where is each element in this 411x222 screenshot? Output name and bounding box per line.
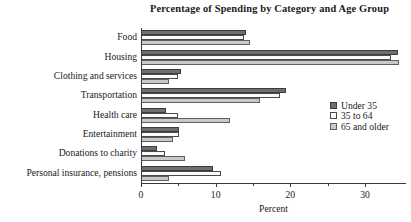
y-axis-category-label: Health care [0, 110, 137, 120]
bar [141, 156, 185, 161]
x-axis-tick-label: 10 [211, 189, 221, 200]
chart-title: Percentage of Spending by Category and A… [0, 3, 411, 14]
legend-label: 65 and older [341, 121, 389, 132]
legend-swatch-icon [330, 112, 337, 119]
bar [141, 118, 230, 123]
x-axis-tick-label: 20 [285, 189, 295, 200]
bar [141, 79, 169, 84]
y-axis-category-labels: FoodHousingClothing and servicesTranspor… [0, 28, 137, 183]
x-axis-minor-tick [253, 183, 254, 186]
legend-label: 35 to 64 [341, 110, 372, 121]
legend-item[interactable]: Under 35 [330, 100, 410, 111]
x-axis-minor-tick [328, 183, 329, 186]
x-axis-tick [365, 183, 366, 187]
y-axis-category-label: Housing [0, 52, 137, 62]
y-axis-line [141, 28, 142, 183]
legend-swatch-icon [330, 123, 337, 130]
x-axis-tick-label: 30 [360, 189, 370, 200]
bar [141, 40, 250, 45]
legend-item[interactable]: 35 to 64 [330, 111, 410, 122]
legend-swatch-icon [330, 102, 337, 109]
x-axis-tick-label: 0 [139, 189, 144, 200]
bar [141, 98, 260, 103]
y-axis-category-label: Entertainment [0, 129, 137, 139]
x-axis-minor-tick [178, 183, 179, 186]
y-axis-category-label: Clothing and services [0, 71, 137, 81]
x-axis-title: Percent [141, 203, 406, 214]
x-axis-tick [290, 183, 291, 187]
bar [141, 137, 173, 142]
x-axis-tick [141, 183, 142, 187]
chart-container: Percentage of Spending by Category and A… [0, 0, 411, 222]
y-axis-category-label: Donations to charity [0, 148, 137, 158]
x-axis-tick [216, 183, 217, 187]
legend-label: Under 35 [341, 100, 377, 111]
legend-item[interactable]: 65 and older [330, 121, 410, 132]
bar [141, 176, 169, 181]
y-axis-category-label: Personal insurance, pensions [0, 168, 137, 178]
y-axis-category-label: Transportation [0, 90, 137, 100]
x-axis-line [141, 183, 406, 184]
bar [141, 60, 399, 65]
y-axis-category-label: Food [0, 32, 137, 42]
chart-legend: Under 3535 to 6465 and older [330, 100, 410, 132]
